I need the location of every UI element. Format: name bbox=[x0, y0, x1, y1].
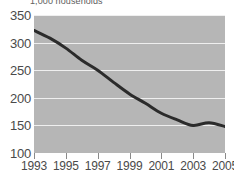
x-axis-tick-label: 2005 bbox=[212, 160, 234, 172]
data-series-line bbox=[34, 15, 225, 153]
x-axis-tick-label: 1999 bbox=[117, 160, 143, 172]
x-axis-tick-label: 2001 bbox=[148, 160, 174, 172]
y-axis-tick-label: 150 bbox=[10, 119, 31, 132]
y-axis-tick-label: 250 bbox=[10, 64, 31, 77]
plot-area bbox=[34, 15, 225, 153]
x-axis-tick-label: 1993 bbox=[21, 160, 47, 172]
x-axis-tick-label: 1997 bbox=[85, 160, 111, 172]
y-axis-tick-label: 200 bbox=[10, 92, 31, 105]
x-axis-tick-label: 2003 bbox=[180, 160, 206, 172]
chart-title: 1,000 households bbox=[30, 0, 103, 6]
chart-figure: 1,000 households 100150200250300350 1993… bbox=[0, 0, 234, 177]
y-axis-tick-label: 300 bbox=[10, 37, 31, 50]
x-axis-tick-label: 1995 bbox=[53, 160, 79, 172]
series-path bbox=[34, 30, 225, 126]
y-axis-tick-label: 350 bbox=[10, 9, 31, 22]
